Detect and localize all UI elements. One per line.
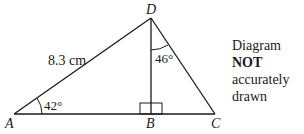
note-text-1: Diagram — [232, 38, 281, 53]
side-ad-length: 8.3 cm — [48, 54, 86, 68]
label-b: B — [146, 117, 155, 131]
angle-arc-d — [151, 45, 168, 50]
line-dc — [151, 18, 215, 114]
diagram-note: Diagram NOT accurately drawn — [232, 37, 304, 105]
label-a: A — [5, 117, 14, 131]
angle-arc-a — [37, 98, 42, 114]
note-bold: NOT — [232, 55, 262, 70]
label-c: C — [211, 117, 220, 131]
note-text-2: accurately drawn — [232, 71, 304, 105]
angle-d-value: 46° — [155, 52, 173, 65]
angle-a-value: 42° — [44, 99, 62, 112]
label-d: D — [146, 3, 156, 17]
